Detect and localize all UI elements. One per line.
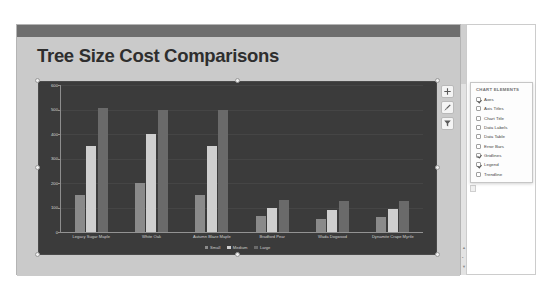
checkbox-data-labels[interactable] [476, 125, 481, 130]
y-axis-tick-label: 600 [38, 83, 58, 88]
checkbox-error-bars[interactable] [476, 144, 481, 149]
bar-large[interactable] [218, 110, 228, 233]
legend-swatch [205, 246, 209, 250]
selection-handle-sw[interactable] [35, 252, 40, 257]
chart-elements-flyout[interactable]: CHART ELEMENTS AxesAxis TitlesChart Titl… [470, 82, 533, 183]
slide-canvas[interactable]: Tree Size Cost Comparisons 0100200300400… [16, 24, 461, 275]
chart-object[interactable]: 0100200300400500600 Legacy Sugar MapleWh… [38, 81, 437, 255]
app-root: Tree Size Cost Comparisons 0100200300400… [0, 0, 552, 295]
chart-styles-button[interactable] [441, 101, 454, 114]
selection-handle-n[interactable] [235, 78, 240, 83]
more-dots-icon[interactable]: • [462, 256, 463, 260]
chart-element-row[interactable]: Axes [476, 95, 529, 104]
funnel-icon [443, 119, 452, 128]
chart-element-row[interactable]: Data Table [476, 132, 529, 141]
x-axis-category-label: Wada Dogwood [302, 234, 362, 240]
chart-element-label: Chart Title [484, 116, 504, 121]
chart-element-label: Data Labels [484, 125, 507, 130]
x-axis-category-label: Legacy Sugar Maple [61, 234, 121, 240]
chart-element-label: Axes [484, 97, 494, 102]
chart-element-label: Legend [484, 162, 499, 167]
selection-handle-ne[interactable] [435, 78, 440, 83]
bar-group[interactable] [242, 85, 302, 232]
bar-medium[interactable] [146, 134, 156, 232]
bar-group[interactable] [61, 85, 121, 232]
chart-element-row[interactable]: Axis Titles [476, 104, 529, 113]
bar-large[interactable] [279, 200, 289, 232]
chart-elements-list: AxesAxis TitlesChart TitleData LabelsDat… [476, 95, 529, 179]
bar-small[interactable] [75, 195, 85, 232]
selection-handle-nw[interactable] [35, 78, 40, 83]
bar-large[interactable] [339, 201, 349, 232]
plus-icon [443, 87, 452, 96]
bar-group[interactable] [363, 85, 423, 232]
bar-large[interactable] [158, 110, 168, 233]
bar-group[interactable] [182, 85, 242, 232]
bar-medium[interactable] [388, 209, 398, 232]
chart-legend[interactable]: SmallMediumLarge [38, 245, 437, 250]
y-axis-tick-mark [58, 208, 60, 209]
page-title: Tree Size Cost Comparisons [37, 45, 279, 67]
y-axis-tick-label: 0 [38, 230, 58, 235]
selection-handle-w[interactable] [35, 165, 40, 170]
legend-item[interactable]: Medium [227, 245, 247, 250]
x-axis-category-label: White Oak [121, 234, 181, 240]
y-axis-tick-mark [58, 85, 60, 86]
checkbox-legend[interactable] [476, 162, 481, 167]
checkbox-gridlines[interactable] [476, 153, 481, 158]
page-margin-bottom [0, 275, 552, 295]
chart-element-row[interactable]: Gridlines [476, 151, 529, 160]
bar-small[interactable] [256, 216, 266, 232]
legend-item[interactable]: Large [254, 245, 270, 250]
selection-handle-e[interactable] [435, 165, 440, 170]
y-axis-tick-mark [58, 232, 60, 233]
chart-element-row[interactable]: Legend [476, 160, 529, 169]
bar-group[interactable] [302, 85, 362, 232]
bar-small[interactable] [376, 217, 386, 232]
bar-medium[interactable] [207, 146, 217, 232]
chart-element-row[interactable]: Data Labels [476, 123, 529, 132]
x-axis-category-label: Autumn Blaze Maple [182, 234, 242, 240]
chart-element-label: Data Table [484, 134, 505, 139]
legend-swatch [227, 246, 231, 250]
selection-handle-se[interactable] [435, 252, 440, 257]
plot-area [61, 85, 423, 232]
y-axis-tick-mark [58, 159, 60, 160]
legend-item[interactable]: Small [205, 245, 221, 250]
bar-small[interactable] [316, 219, 326, 232]
chart-element-row[interactable]: Error Bars [476, 141, 529, 150]
checkbox-axis-titles[interactable] [476, 106, 481, 111]
bar-small[interactable] [195, 195, 205, 232]
bar-group[interactable] [121, 85, 181, 232]
chart-elements-button[interactable] [441, 85, 454, 98]
chart-elements-title: CHART ELEMENTS [476, 87, 529, 92]
bar-medium[interactable] [327, 210, 337, 232]
checkbox-chart-title[interactable] [476, 116, 481, 121]
chart-element-row[interactable]: Trendline [476, 169, 529, 178]
y-axis-tick-label: 400 [38, 132, 58, 137]
legend-label: Medium [233, 245, 248, 250]
y-axis-tick-label: 500 [38, 107, 58, 112]
checkbox-trendline[interactable] [476, 172, 481, 177]
x-axis-category-labels: Legacy Sugar MapleWhite OakAutumn Blaze … [61, 234, 423, 244]
checkbox-data-table[interactable] [476, 134, 481, 139]
chart-quick-buttons [441, 85, 454, 130]
chart-filters-button[interactable] [441, 117, 454, 130]
bar-small[interactable] [135, 183, 145, 232]
selection-handle-s[interactable] [235, 252, 240, 257]
pane-placeholder-chip [470, 185, 476, 192]
checkbox-axes[interactable] [476, 97, 481, 102]
bar-medium[interactable] [86, 146, 96, 232]
bar-medium[interactable] [267, 208, 277, 233]
y-axis-tick-mark [58, 110, 60, 111]
chart-element-row[interactable]: Chart Title [476, 114, 529, 123]
bar-large[interactable] [399, 201, 409, 232]
legend-label: Small [210, 245, 220, 250]
chart-element-label: Axis Titles [484, 106, 504, 111]
chart-element-label: Trendline [484, 172, 502, 177]
y-axis-tick-mark [58, 134, 60, 135]
y-axis-tick-label: 100 [38, 205, 58, 210]
bar-large[interactable] [98, 108, 108, 232]
slide-header-bar [17, 25, 460, 37]
brush-icon [443, 103, 452, 112]
